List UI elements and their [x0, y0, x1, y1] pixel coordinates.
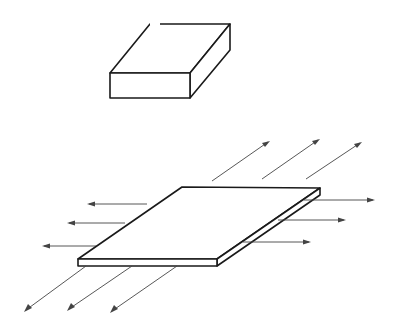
arrow-front-left-2 — [69, 266, 132, 309]
arrowhead-icon — [367, 198, 375, 203]
arrowhead-icon — [67, 303, 75, 311]
plate-stretching-diagram — [0, 0, 397, 331]
thick-block — [110, 24, 230, 98]
arrowhead-icon — [67, 221, 75, 226]
arrowhead-icon — [87, 202, 95, 207]
plate-front-face — [78, 259, 217, 266]
arrowhead-icon — [312, 139, 320, 145]
arrowhead-icon — [354, 142, 362, 148]
arrows-front-left — [24, 266, 177, 313]
arrow-back-right-1 — [212, 142, 268, 181]
arrows-back-right — [212, 139, 362, 181]
arrowhead-icon — [24, 304, 32, 312]
arrowhead-icon — [303, 240, 311, 245]
arrow-back-right-2 — [262, 140, 318, 179]
arrow-back-right-3 — [306, 143, 360, 179]
arrowhead-icon — [338, 218, 346, 223]
thin-plate — [78, 187, 320, 266]
block-front-face — [110, 73, 190, 98]
arrowhead-icon — [262, 141, 270, 147]
arrowhead-icon — [42, 244, 50, 249]
arrowhead-icon — [110, 305, 118, 313]
